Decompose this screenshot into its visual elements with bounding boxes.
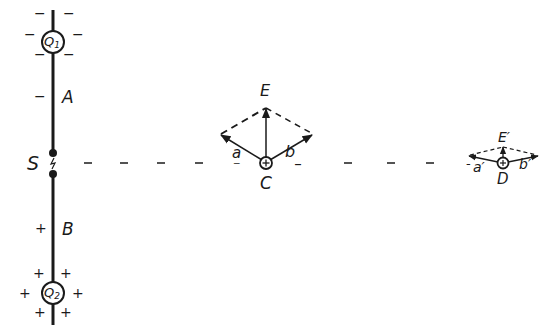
parallelogram-right <box>266 108 313 134</box>
point-c-label: C <box>260 175 272 192</box>
vector-a-prime-label: a′ <box>473 160 485 174</box>
segment-b-sign: + <box>35 221 47 235</box>
point-d-label: D <box>497 172 509 187</box>
plus-sign: + <box>34 305 46 319</box>
vector-b-prime-label: b′ <box>519 157 531 171</box>
plus-sign: + <box>72 286 84 300</box>
segment-b-label: B <box>62 221 74 238</box>
vector-a <box>221 135 262 160</box>
q1-subscript: 1 <box>54 40 60 50</box>
q2-symbol: Q <box>44 285 54 300</box>
charge-label-q1: Q1 <box>44 35 60 50</box>
vector-b-label: b <box>285 144 295 160</box>
plus-sign: + <box>19 286 31 300</box>
segment-a-label: A <box>62 89 74 106</box>
charge-label-q2: Q2 <box>44 286 60 301</box>
parallelogram-left <box>221 108 266 134</box>
plus-sign: + <box>60 305 72 319</box>
parallelogram-left-prime <box>470 147 503 155</box>
vector-e-label: E <box>260 83 270 99</box>
spark-gap-label: S <box>27 154 39 173</box>
plus-sign: + <box>60 266 72 280</box>
spark-icon <box>51 158 55 169</box>
vector-e-prime-label: E′ <box>498 130 510 144</box>
segment-a-sign: − <box>34 89 46 103</box>
minus-sign: − <box>72 27 84 41</box>
spark-gap-ball-lower <box>49 170 57 178</box>
minus-sign: − <box>24 27 36 41</box>
minus-sign: − <box>34 6 46 20</box>
vector-a-prime-mark: - <box>466 157 471 170</box>
minus-sign: − <box>63 6 75 20</box>
minus-sign: − <box>34 47 46 61</box>
q2-subscript: 2 <box>54 291 60 301</box>
plus-sign: + <box>33 266 45 280</box>
vector-b-mark: _ <box>295 152 301 164</box>
spark-gap-ball-upper <box>49 149 57 157</box>
vector-a-mark: _ <box>234 152 240 163</box>
minus-sign: − <box>63 47 75 61</box>
parallelogram-right-prime <box>503 147 537 155</box>
